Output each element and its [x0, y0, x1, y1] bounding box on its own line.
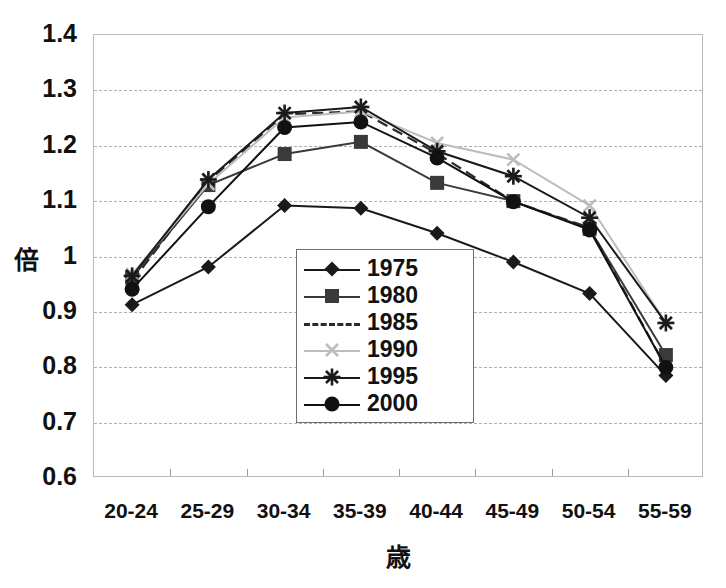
data-point-circle — [658, 360, 673, 375]
data-point-diamond — [430, 226, 445, 241]
legend-item-2000[interactable]: 2000 — [304, 390, 464, 417]
data-point-diamond — [353, 201, 368, 216]
x-axis-tick-55-59: 55-59 — [620, 500, 710, 521]
data-point-square — [325, 289, 339, 303]
data-point-circle — [353, 114, 368, 129]
legend-symbol-diamond-icon — [304, 259, 360, 279]
legend-symbol-none-icon — [304, 313, 360, 333]
data-point-diamond — [125, 297, 140, 312]
y-axis-tick-1.2: 1.2 — [0, 132, 77, 157]
y-axis-tick-1.3: 1.3 — [0, 76, 77, 101]
data-point-cross — [326, 343, 338, 355]
data-point-circle — [506, 194, 521, 209]
data-point-square — [354, 135, 368, 149]
data-point-circle — [277, 120, 292, 135]
legend-item-1980[interactable]: 1980 — [304, 282, 464, 309]
legend-symbol-cross-icon — [304, 340, 360, 360]
legend-label: 2000 — [367, 392, 418, 415]
data-point-star — [276, 105, 293, 122]
data-point-circle — [430, 150, 445, 165]
chart-legend: 197519801985199019952000 — [296, 249, 474, 423]
legend-label: 1980 — [367, 284, 418, 307]
y-axis-tick-0.7: 0.7 — [0, 409, 77, 434]
y-axis-tick-0.6: 0.6 — [0, 464, 77, 489]
legend-label: 1995 — [367, 365, 418, 388]
legend-label: 1975 — [367, 257, 418, 280]
data-point-diamond — [506, 255, 521, 270]
data-point-diamond — [325, 261, 340, 276]
legend-item-1990[interactable]: 1990 — [304, 336, 464, 363]
data-point-star — [657, 314, 674, 331]
data-point-square — [430, 176, 444, 190]
y-axis-tick-0.9: 0.9 — [0, 298, 77, 323]
data-point-circle — [325, 396, 340, 411]
data-point-circle — [582, 222, 597, 237]
legend-symbol-square-icon — [304, 286, 360, 306]
y-axis-tick-1.1: 1.1 — [0, 187, 77, 212]
data-point-circle — [125, 282, 140, 297]
legend-symbol-star-icon — [304, 367, 360, 387]
x-axis-title: 歳 — [338, 537, 458, 573]
y-axis-tick-0.8: 0.8 — [0, 353, 77, 378]
legend-item-1985[interactable]: 1985 — [304, 309, 464, 336]
data-point-star — [200, 171, 217, 188]
data-point-square — [278, 147, 292, 161]
data-point-star — [324, 368, 341, 385]
data-point-star — [505, 168, 522, 185]
data-point-star — [352, 98, 369, 115]
y-axis-tick-1.4: 1.4 — [0, 21, 77, 46]
legend-symbol-circle-icon — [304, 394, 360, 414]
legend-label: 1985 — [367, 311, 418, 334]
legend-label: 1990 — [367, 338, 418, 361]
legend-item-1975[interactable]: 1975 — [304, 255, 464, 282]
chart-figure: 倍 1.41.31.21.110.90.80.70.6 20-2425-2930… — [0, 0, 726, 588]
y-axis-tick-1: 1 — [0, 243, 77, 268]
data-point-circle — [201, 199, 216, 214]
legend-item-1995[interactable]: 1995 — [304, 363, 464, 390]
